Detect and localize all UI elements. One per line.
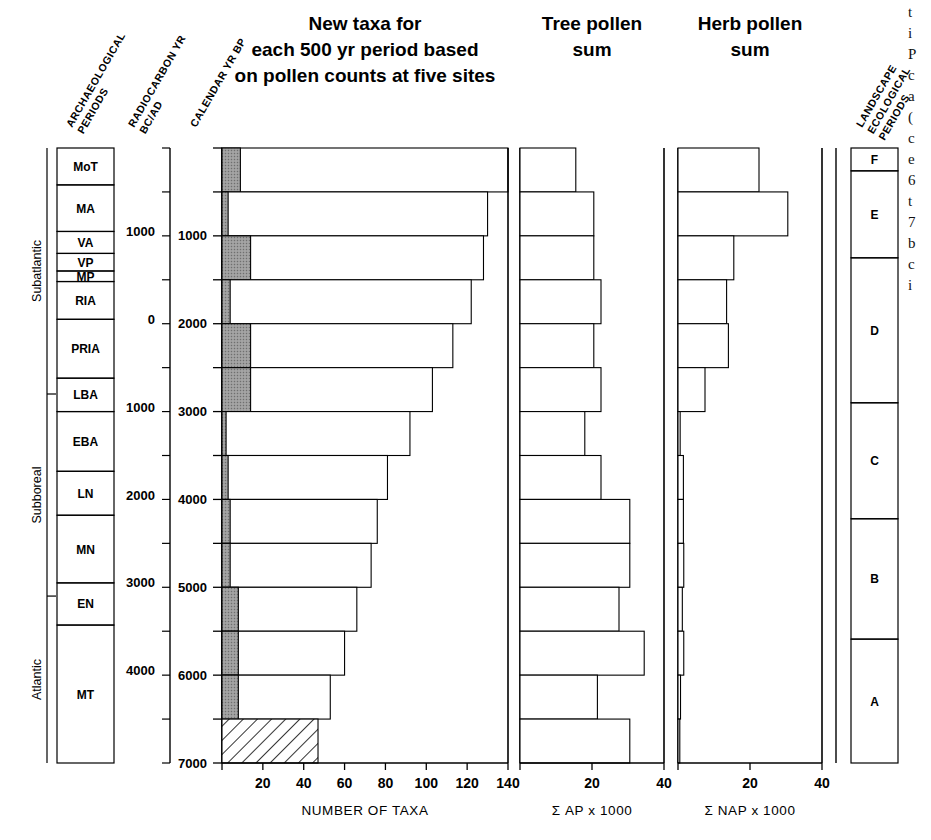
taxa-bar	[222, 368, 432, 412]
archaeological-period-label: PRIA	[71, 342, 100, 356]
archaeological-period-label: MA	[76, 202, 95, 216]
herb-pollen-panel: 2040	[678, 148, 830, 791]
taxa-bar-shaded-segment	[222, 412, 226, 456]
radiocarbon-tick-label: 3000	[126, 575, 155, 590]
main-panel-title: on pollen counts at five sites	[235, 65, 496, 86]
chronozone-label: Subboreal	[30, 467, 44, 524]
taxa-bar-shaded-segment	[222, 499, 230, 543]
herb-pollen-xtick-label: 20	[742, 775, 758, 791]
taxa-bar	[222, 719, 318, 763]
herb-panel-title: sum	[730, 39, 769, 60]
tree-pollen-bar	[520, 148, 576, 192]
archaeological-period-label: VP	[77, 256, 93, 270]
tree-pollen-bar	[520, 719, 630, 763]
taxa-bar	[222, 499, 377, 543]
archaeological-period-label: MT	[77, 688, 95, 702]
tree-pollen-bar	[520, 280, 601, 324]
taxa-xtick-label: 120	[455, 775, 479, 791]
taxa-xtick-label: 20	[255, 775, 271, 791]
taxa-bar	[222, 456, 387, 500]
herb-pollen-bar	[678, 587, 682, 631]
herb-pollen-bar	[678, 631, 684, 675]
taxa-bar	[222, 412, 410, 456]
landscape-periods-column: FEDCBA	[836, 148, 898, 763]
archaeological-period-label: RIA	[75, 294, 96, 308]
landscape-period-label: D	[870, 324, 879, 338]
chronozone-label: Atlantic	[30, 659, 44, 700]
radiocarbon-tick-label: 0	[148, 312, 155, 327]
taxa-bar	[222, 543, 371, 587]
radiocarbon-tick-label: 1000	[126, 400, 155, 415]
archaeological-periods-column: MoTMAVAVPMPRIAPRIALBAEBALNMNENMT	[57, 148, 114, 763]
tree-pollen-bar	[520, 192, 594, 236]
taxa-bar-shaded-segment	[222, 280, 230, 324]
main-panel-title: New taxa for	[309, 13, 423, 34]
taxa-bar	[222, 236, 483, 280]
tree-pollen-xtick-label: 40	[656, 775, 672, 791]
tree-pollen-bar	[520, 543, 630, 587]
archaeological-period-label: EN	[77, 597, 94, 611]
archaeological-period-label: MN	[76, 543, 95, 557]
taxa-bar	[222, 148, 508, 192]
herb-pollen-bar	[678, 324, 728, 368]
taxa-xtick-label: 60	[337, 775, 353, 791]
tree-pollen-bar	[520, 412, 585, 456]
new-taxa-panel: 20406080100120140	[222, 148, 520, 791]
calendar-tick-label: 2000	[178, 316, 207, 331]
tree-pollen-bar	[520, 236, 594, 280]
radiocarbon-tick-label: 2000	[126, 488, 155, 503]
calendar-axis-column: 1000200030004000500060007000	[178, 148, 222, 771]
taxa-bar-shaded-segment	[222, 236, 251, 280]
taxa-bar-shaded-segment	[222, 675, 238, 719]
taxa-bar	[222, 587, 357, 631]
herb-pollen-bar	[678, 280, 727, 324]
axis-labels: NUMBER OF TAXAΣ AP x 1000Σ NAP x 1000	[301, 803, 795, 818]
herb-pollen-bar	[678, 543, 684, 587]
herb-pollen-bar	[678, 148, 759, 192]
main-panel-title: each 500 yr period based	[251, 39, 478, 60]
figure-svg: ARCHAEOLOGICALPERIODSRADIOCARBON YRBC/AD…	[0, 0, 931, 840]
taxa-bar-shaded-segment	[222, 456, 228, 500]
calendar-tick-label: 5000	[178, 580, 207, 595]
taxa-bar-shaded-segment	[222, 192, 228, 236]
archaeological-period-label: EBA	[73, 435, 99, 449]
calendar-tick-label: 1000	[178, 228, 207, 243]
radiocarbon-tick-label: 4000	[126, 663, 155, 678]
taxa-bar-shaded-segment	[222, 543, 230, 587]
herb-pollen-bar	[678, 412, 680, 456]
taxa-bar	[222, 192, 488, 236]
herb-pollen-bar	[678, 236, 734, 280]
herb-pollen-bar	[678, 719, 680, 763]
tree-pollen-xtick-label: 20	[584, 775, 600, 791]
taxa-bar-shaded-segment	[222, 368, 251, 412]
herb-pollen-bar	[678, 675, 681, 719]
taxa-bar-shaded-segment	[222, 148, 240, 192]
chronozone-column: SubatlanticSubborealAtlantic	[30, 148, 56, 763]
chronozone-label: Subatlantic	[30, 240, 44, 302]
landscape-period-label: F	[871, 153, 878, 167]
taxa-bar-shaded-segment	[222, 324, 251, 368]
herb-panel-title: Herb pollen	[698, 13, 803, 34]
taxa-xtick-label: 100	[415, 775, 439, 791]
caption-fragment: t i P c a ( c e 6 t 7 b c i	[908, 2, 916, 296]
taxa-bar	[222, 324, 453, 368]
landscape-period-label: B	[870, 572, 879, 586]
landscape-period-label: A	[870, 695, 879, 709]
tree-pollen-bar	[520, 675, 597, 719]
taxa-xtick-label: 40	[296, 775, 312, 791]
calendar-tick-label: 7000	[178, 756, 207, 771]
taxa-bar-shaded-segment	[222, 587, 238, 631]
taxa-xtick-label: 80	[378, 775, 394, 791]
archaeological-period-label: VA	[78, 236, 94, 250]
herb-pollen-bar	[678, 456, 683, 500]
tree-pollen-bar	[520, 499, 630, 543]
tree-pollen-bar	[520, 368, 601, 412]
archaeological-period-label: LN	[78, 487, 94, 501]
landscape-period-label: E	[870, 208, 878, 222]
landscape-period-label: C	[870, 454, 879, 468]
taxa-xtick-label: 140	[496, 775, 520, 791]
archaeological-period-label: LBA	[73, 388, 98, 402]
archaeological-period-label: MoT	[73, 160, 98, 174]
tree-pollen-bar	[520, 587, 619, 631]
herb-axis-title: Σ NAP x 1000	[704, 803, 795, 818]
